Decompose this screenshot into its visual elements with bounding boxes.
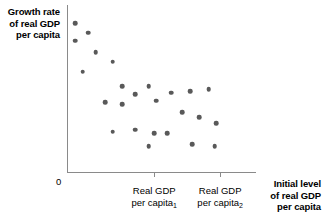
scatter-point [212, 144, 217, 149]
x-axis-tick [220, 173, 221, 177]
scatter-point [214, 121, 219, 126]
scatter-point [169, 90, 174, 95]
y-axis-label-line-1: Growth rate [2, 6, 60, 18]
x-axis-tick-label: Real GDPper capita2 [180, 185, 260, 209]
origin-label: 0 [56, 176, 61, 187]
scatter-point [120, 84, 125, 89]
scatter-point [73, 21, 78, 26]
scatter-point [93, 50, 98, 55]
y-axis-label-line-3: per capita [2, 29, 60, 41]
scatter-point [103, 100, 108, 105]
scatter-point [146, 84, 151, 89]
y-axis-label-line-2: of real GDP [2, 18, 60, 30]
x-axis-tick-label-subscript: 1 [173, 202, 177, 209]
scatter-point [154, 98, 159, 103]
x-axis-tick-label-line-1: Real GDP [180, 185, 260, 197]
scatter-point [180, 110, 185, 115]
x-axis-tick [154, 173, 155, 177]
scatter-point [120, 102, 125, 107]
scatter-point [73, 38, 78, 43]
convergence-scatter-figure: Growth rate of real GDP per capita 0 Ini… [0, 0, 324, 224]
scatter-point [80, 69, 85, 74]
scatter-point [86, 30, 91, 35]
scatter-point [165, 131, 170, 136]
scatter-point [146, 144, 151, 149]
scatter-point [133, 92, 138, 97]
scatter-point [197, 115, 202, 120]
x-axis-tick-label-line-2: per capita2 [180, 197, 260, 210]
scatter-point [190, 142, 195, 147]
scatter-point [110, 129, 115, 134]
scatter-point [152, 131, 157, 136]
scatter-point [207, 87, 212, 92]
scatter-point [110, 60, 115, 65]
y-axis-label: Growth rate of real GDP per capita [2, 6, 60, 41]
y-axis-line [67, 5, 68, 173]
scatter-point [188, 89, 193, 94]
x-axis-line [67, 172, 256, 173]
x-axis-tick-label-subscript: 2 [239, 202, 243, 209]
scatter-point [133, 128, 138, 133]
